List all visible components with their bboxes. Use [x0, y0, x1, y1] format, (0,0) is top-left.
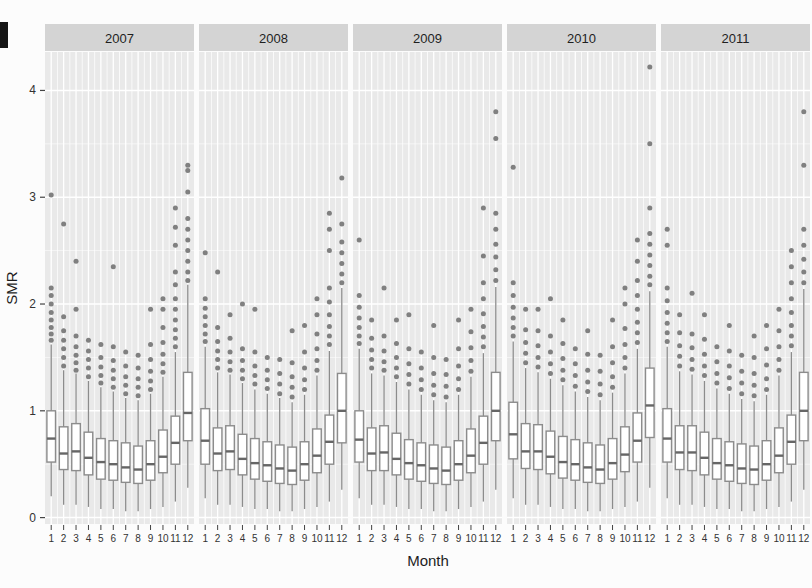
outlier-point [61, 355, 66, 360]
facet-label: 2009 [413, 31, 442, 46]
outlier-point [86, 338, 91, 343]
outlier-point [136, 353, 141, 358]
outlier-point [215, 339, 220, 344]
facet-label: 2011 [722, 31, 750, 46]
outlier-point [61, 328, 66, 333]
outlier-point [240, 368, 245, 373]
outlier-point [252, 363, 257, 368]
box-iqr [521, 424, 530, 469]
outlier-point [622, 355, 627, 360]
outlier-point [622, 302, 627, 307]
outlier-point [86, 366, 91, 371]
x-tick-label: 12 [490, 533, 502, 544]
outlier-point [598, 392, 603, 397]
outlier-point [394, 366, 399, 371]
outlier-point [394, 355, 399, 360]
outlier-point [431, 323, 436, 328]
outlier-point [764, 387, 769, 392]
outlier-point [622, 366, 627, 371]
outlier-point [148, 342, 153, 347]
outlier-point [98, 342, 103, 347]
x-tick-label: 4 [702, 533, 708, 544]
outlier-point [431, 383, 436, 388]
outlier-point [111, 376, 116, 381]
outlier-point [481, 280, 486, 285]
outlier-point [523, 340, 528, 345]
outlier-point [677, 330, 682, 335]
outlier-point [277, 371, 282, 376]
box-iqr [534, 425, 543, 470]
outlier-point [789, 334, 794, 339]
x-tick-label: 2 [215, 533, 221, 544]
outlier-point [635, 278, 640, 283]
outlier-point [339, 280, 344, 285]
outlier-point [776, 357, 781, 362]
outlier-point [511, 280, 516, 285]
outlier-point [739, 381, 744, 386]
outlier-point [585, 379, 590, 384]
outlier-point [49, 293, 54, 298]
x-tick-label: 5 [714, 533, 720, 544]
box-iqr [84, 432, 93, 475]
y-tick-label: 1 [29, 404, 36, 418]
outlier-point [493, 211, 498, 216]
outlier-point [111, 368, 116, 373]
box-iqr [251, 439, 260, 480]
outlier-point [665, 298, 670, 303]
outlier-point [98, 381, 103, 386]
outlier-point [647, 263, 652, 268]
outlier-point [240, 302, 245, 307]
box-iqr [479, 416, 488, 464]
outlier-point [357, 293, 362, 298]
outlier-point [456, 346, 461, 351]
box-iqr [380, 426, 389, 471]
outlier-point [394, 341, 399, 346]
outlier-point [493, 109, 498, 114]
outlier-point [327, 211, 332, 216]
outlier-point [647, 252, 652, 257]
outlier-point [173, 296, 178, 301]
outlier-point [789, 310, 794, 315]
outlier-point [481, 324, 486, 329]
box-iqr [201, 409, 210, 465]
outlier-point [357, 305, 362, 310]
outlier-point [74, 307, 79, 312]
outlier-point [585, 328, 590, 333]
outlier-point [419, 366, 424, 371]
outlier-point [185, 189, 190, 194]
outlier-point [598, 353, 603, 358]
outlier-point [327, 299, 332, 304]
outlier-point [690, 367, 695, 372]
outlier-point [277, 391, 282, 396]
outlier-point [49, 318, 54, 323]
outlier-point [764, 346, 769, 351]
outlier-point [481, 205, 486, 210]
outlier-point [173, 243, 178, 248]
outlier-point [665, 339, 670, 344]
outlier-point [148, 378, 153, 383]
outlier-point [647, 242, 652, 247]
outlier-point [511, 334, 516, 339]
x-tick-label: 12 [798, 533, 810, 544]
outlier-point [314, 368, 319, 373]
outlier-point [690, 291, 695, 296]
x-tick-label: 7 [585, 533, 591, 544]
box-iqr [72, 424, 81, 471]
box-iqr [226, 426, 235, 470]
box-iqr [467, 429, 476, 473]
outlier-point [444, 372, 449, 377]
outlier-point [185, 278, 190, 283]
outlier-point [277, 382, 282, 387]
outlier-point [382, 349, 387, 354]
facet-panel-2011: 2011123456789101112 [661, 24, 810, 544]
outlier-point [727, 386, 732, 391]
x-tick-label: 5 [98, 533, 104, 544]
outlier-point [240, 346, 245, 351]
facet-panel-2010: 2010123456789101112 [507, 24, 656, 544]
outlier-point [677, 312, 682, 317]
outlier-point [228, 359, 233, 364]
outlier-point [665, 243, 670, 248]
outlier-point [456, 318, 461, 323]
outlier-point [548, 371, 553, 376]
outlier-point [327, 227, 332, 232]
